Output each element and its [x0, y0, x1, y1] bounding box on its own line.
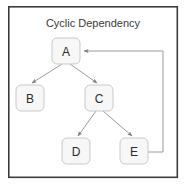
diagram-root: Cyclic Dependency A B C D — [0, 0, 186, 186]
node-d-label: D — [72, 145, 81, 159]
node-a[interactable]: A — [52, 38, 80, 64]
node-c-label: C — [95, 92, 104, 106]
cyclic-dependency-diagram: Cyclic Dependency A B C D — [0, 0, 186, 186]
node-a-label: A — [62, 45, 70, 59]
node-c[interactable]: C — [85, 85, 113, 111]
node-b-label: B — [26, 92, 34, 106]
node-b[interactable]: B — [16, 85, 44, 111]
diagram-title: Cyclic Dependency — [46, 17, 141, 29]
node-e-label: E — [130, 145, 138, 159]
node-e[interactable]: E — [120, 138, 148, 164]
node-d[interactable]: D — [62, 138, 90, 164]
